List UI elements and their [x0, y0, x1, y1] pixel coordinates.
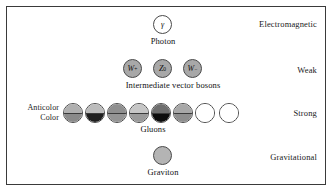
photon-glyph: γ	[154, 16, 171, 33]
gluon-axis-labels: Anticolor Color	[11, 103, 59, 122]
gluon-4-divider	[130, 113, 148, 114]
w-minus-symbol: W	[188, 65, 195, 73]
gluon-8-anticolor	[220, 104, 238, 113]
gluon-2-divider	[86, 113, 104, 114]
particle-photon: γ	[153, 15, 172, 34]
gluon-2-color	[86, 113, 104, 122]
particle-gluon-2	[85, 103, 105, 123]
particle-gluon-4	[129, 103, 149, 123]
label-anticolor: Anticolor	[11, 103, 59, 113]
particle-gluon-8	[219, 103, 239, 123]
force-label-gravitational: Gravitational	[270, 152, 317, 162]
w-plus-glyph: W+	[124, 60, 141, 77]
diagram-frame: γ Photon Electromagnetic W+ Z0 W− Interm…	[6, 6, 326, 185]
label-color: Color	[11, 113, 59, 123]
z-zero-glyph: Z0	[154, 60, 171, 77]
particle-gluon-7	[195, 103, 215, 123]
force-label-weak: Weak	[297, 65, 317, 75]
particle-gluon-5	[151, 103, 171, 123]
particle-w-plus-boson: W+	[123, 59, 142, 78]
gluon-3-color	[108, 113, 126, 122]
gluon-8-color	[220, 113, 238, 122]
particle-z-zero-boson: Z0	[153, 59, 172, 78]
particle-gluon-6	[173, 103, 193, 123]
caption-gluons: Gluons	[113, 124, 193, 134]
gluon-7-color	[196, 113, 214, 122]
gluon-1-divider	[64, 113, 82, 114]
caption-graviton: Graviton	[123, 167, 203, 177]
particle-graviton	[153, 146, 172, 165]
gluon-7-anticolor	[196, 104, 214, 113]
force-label-strong: Strong	[293, 108, 317, 118]
w-minus-glyph: W−	[184, 60, 201, 77]
particle-gluon-3	[107, 103, 127, 123]
graviton-glyph	[154, 147, 171, 164]
gluon-3-divider	[108, 113, 126, 114]
gluon-1-color	[64, 113, 82, 122]
force-label-electromagnetic: Electromagnetic	[259, 19, 317, 29]
gluon-5-color	[152, 113, 170, 122]
particle-w-minus-boson: W−	[183, 59, 202, 78]
gluon-5-divider	[152, 113, 170, 114]
gluon-4-color	[130, 113, 148, 122]
caption-intermediate-vector-bosons: Intermediate vector bosons	[93, 80, 253, 90]
force-carriers-diagram: γ Photon Electromagnetic W+ Z0 W− Interm…	[0, 0, 332, 191]
w-plus-symbol: W	[128, 65, 135, 73]
gluon-6-color	[174, 113, 192, 122]
particle-gluon-1	[63, 103, 83, 123]
caption-photon: Photon	[123, 36, 203, 46]
gluon-6-divider	[174, 113, 192, 114]
